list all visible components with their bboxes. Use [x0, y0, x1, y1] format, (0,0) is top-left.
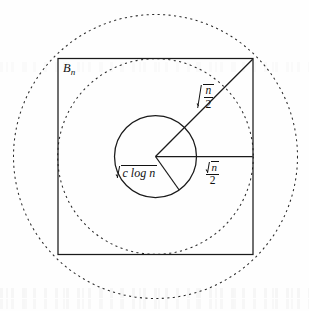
scan-artifact-band: [0, 62, 309, 72]
sqrt-over-fraction: n 2: [197, 84, 214, 110]
fraction-with-radical-numerator: n 2: [206, 161, 219, 187]
geometry-figure: Bn n 2 n 2 c log n: [0, 0, 309, 311]
label-horizontal-radius: n 2: [206, 160, 219, 187]
label-diagonal-radius: n 2: [197, 84, 214, 113]
scan-artifact-band: [0, 299, 309, 309]
radical-sign-icon: [197, 84, 203, 110]
wedge-lower-radius: [156, 157, 180, 191]
inline-radical: c log n: [116, 165, 157, 179]
label-inner-circle-radius: c log n: [116, 165, 157, 182]
radicand: n: [211, 161, 220, 174]
radicand: c log n: [121, 165, 157, 179]
radical-sign-icon: [206, 161, 211, 174]
fraction-numerator: n: [204, 85, 213, 97]
figure-canvas: [0, 0, 309, 311]
scan-artifact-band: [0, 288, 309, 298]
fraction: n 2: [203, 84, 214, 110]
fraction-denominator: 2: [210, 175, 216, 187]
fraction-denominator: 2: [204, 98, 213, 110]
fraction-numerator: n: [206, 161, 219, 174]
radical-sign-icon: [116, 165, 121, 179]
